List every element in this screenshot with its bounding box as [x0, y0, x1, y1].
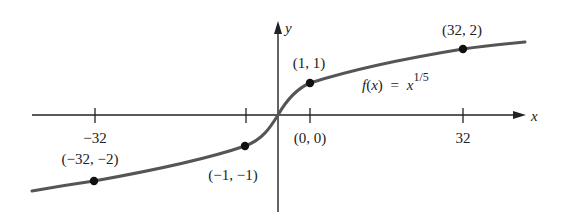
x-tick-label-neg32: −32	[83, 130, 106, 146]
function-graph: x y −32 32 (−32, −2) (−1, −1) (0, 0) (1,…	[0, 0, 567, 219]
point-label-32-2: (32, 2)	[442, 22, 482, 39]
y-axis-label: y	[283, 20, 292, 36]
point-label-neg1-neg1: (−1, −1)	[208, 167, 257, 184]
y-axis-arrow-icon	[274, 21, 282, 34]
point-1-1	[306, 79, 314, 87]
function-exponent: 1/5	[413, 70, 428, 84]
point-label-1-1: (1, 1)	[293, 55, 326, 72]
function-equals: =	[387, 77, 403, 93]
point-32-2	[459, 45, 467, 53]
x-axis-label: x	[530, 108, 538, 124]
point-neg32-neg2	[90, 177, 98, 185]
x-axis-arrow-icon	[513, 111, 526, 119]
x-tick-label-32: 32	[456, 130, 471, 146]
point-neg1-neg1	[241, 142, 249, 150]
function-label: f(x) = x1/5	[362, 70, 429, 94]
point-label-origin: (0, 0)	[294, 130, 327, 147]
point-label-neg32-neg2: (−32, −2)	[62, 151, 119, 168]
function-paren-close: )	[378, 77, 383, 94]
